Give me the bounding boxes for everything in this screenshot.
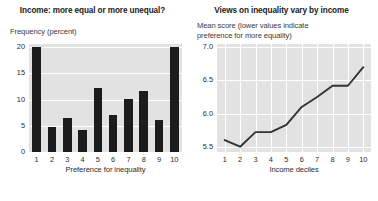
bar-8 <box>139 91 148 152</box>
line-xtick-1: 1 <box>217 156 232 164</box>
line-ytick-7.0: 7.0 <box>189 43 213 51</box>
bar-chart-title: Income: more equal or more unequal? <box>0 6 185 16</box>
bar-chart-ylabel: Frequency (percent) <box>10 27 76 36</box>
bar-chart-xlabel: Preference for inequality <box>29 165 182 174</box>
line-ytick-6.5: 6.5 <box>189 76 213 84</box>
bar-xtick-8: 8 <box>136 156 151 164</box>
bar-xtick-5: 5 <box>90 156 105 164</box>
bar-xtick-10: 10 <box>167 156 182 164</box>
bar-1 <box>32 47 41 152</box>
line-ytick-6.0: 6.0 <box>189 110 213 118</box>
line-chart-ylabel-line1: Mean score (lower values indicate <box>197 21 309 30</box>
bar-ytick-15: 15 <box>2 69 25 77</box>
line-xtick-4: 4 <box>263 156 278 164</box>
bar-6 <box>109 115 118 152</box>
line-xtick-10: 10 <box>356 156 371 164</box>
line-series <box>217 44 371 152</box>
bar-xtick-3: 3 <box>60 156 75 164</box>
bar-xtick-9: 9 <box>151 156 166 164</box>
bar-3 <box>63 118 72 152</box>
line-plot-area <box>217 44 371 152</box>
bar-9 <box>155 120 164 152</box>
bar-xtick-6: 6 <box>106 156 121 164</box>
bar-gridline <box>29 47 182 48</box>
panel-line-chart: Views on inequality vary by income Mean … <box>189 0 378 201</box>
bar-xtick-7: 7 <box>121 156 136 164</box>
line-xtick-8: 8 <box>325 156 340 164</box>
figure-container: Income: more equal or more unequal? Freq… <box>0 0 378 201</box>
bar-7 <box>124 99 133 152</box>
bar-ytick-0: 0 <box>2 148 25 156</box>
line-chart-xlabel: Income deciles <box>217 165 371 174</box>
bar-ytick-10: 10 <box>2 96 25 104</box>
bar-gridline <box>29 100 182 101</box>
line-chart-ylabel-line2: preference for more equality) <box>197 31 292 40</box>
bar-xtick-2: 2 <box>44 156 59 164</box>
bar-xtick-4: 4 <box>75 156 90 164</box>
line-xtick-7: 7 <box>309 156 324 164</box>
line-xtick-6: 6 <box>294 156 309 164</box>
bar-5 <box>94 88 103 152</box>
bar-ytick-5: 5 <box>2 122 25 130</box>
panel-bar-chart: Income: more equal or more unequal? Freq… <box>0 0 189 201</box>
line-chart-title: Views on inequality vary by income <box>189 6 374 16</box>
line-xtick-3: 3 <box>248 156 263 164</box>
bar-plot-area <box>29 44 182 152</box>
line-xtick-2: 2 <box>232 156 247 164</box>
line-xtick-9: 9 <box>340 156 355 164</box>
bar-xtick-1: 1 <box>29 156 44 164</box>
bar-ytick-20: 20 <box>2 43 25 51</box>
bar-2 <box>48 127 57 152</box>
bar-10 <box>170 47 179 152</box>
bar-4 <box>78 130 87 152</box>
line-xtick-5: 5 <box>279 156 294 164</box>
line-ytick-5.5: 5.5 <box>189 143 213 151</box>
bar-gridline <box>29 73 182 74</box>
